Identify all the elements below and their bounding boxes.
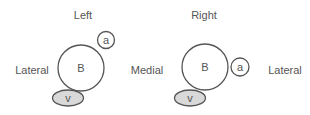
panel-right-lateral-label: Lateral <box>268 64 302 76</box>
circle-a-left-label: a <box>103 34 110 46</box>
panel-right-medial-label: Medial <box>131 64 163 76</box>
panel-left-title: Left <box>74 9 92 21</box>
panel-right: Right Medial Lateral B a v <box>131 9 302 106</box>
ellipse-v-left-label: v <box>65 92 71 104</box>
panel-left: Left Lateral B a v <box>15 9 114 106</box>
panel-left-lateral-label: Lateral <box>15 64 49 76</box>
circle-b-right-label: B <box>201 61 208 73</box>
ellipse-v-right-label: v <box>187 92 193 104</box>
circle-a-right-label: a <box>237 61 244 73</box>
diagram: Left Lateral B a v Right Medial Lateral … <box>0 0 310 115</box>
panel-right-title: Right <box>191 9 217 21</box>
circle-b-left-label: B <box>77 62 84 74</box>
